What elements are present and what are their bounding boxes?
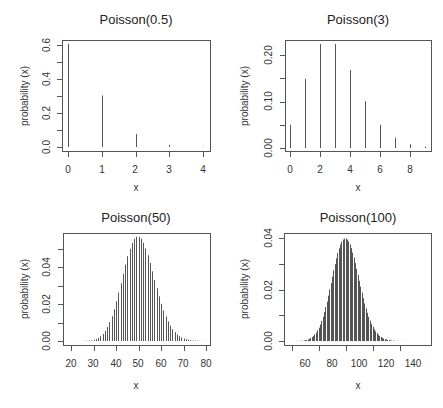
y-tick-label: 0.00 xyxy=(263,331,274,350)
y-axis-label: probability (x) xyxy=(19,66,30,126)
x-tick-label: 60 xyxy=(155,358,166,369)
y-tick-label: 0.02 xyxy=(41,294,52,313)
x-tick-label: 40 xyxy=(110,358,121,369)
x-tick-label: 100 xyxy=(351,358,368,369)
y-tick-label: 0.6 xyxy=(41,38,52,52)
x-tick-label: 6 xyxy=(377,164,383,175)
plot-poisson-0-5: Poisson(0.5) probability (x) x 0 1 2 3 4… xyxy=(0,0,222,204)
x-tick-label: 140 xyxy=(405,358,422,369)
x-axis-label: x xyxy=(356,182,361,193)
plot-area xyxy=(0,204,222,408)
y-tick-label: 0.20 xyxy=(263,45,274,64)
x-tick-label: 8 xyxy=(407,164,413,175)
x-axis-label: x xyxy=(134,380,139,391)
y-tick-label: 0.04 xyxy=(41,257,52,276)
x-tick-label: 70 xyxy=(177,358,188,369)
x-tick-label: 80 xyxy=(326,358,337,369)
x-tick-label: 4 xyxy=(200,164,206,175)
x-tick-label: 0 xyxy=(287,164,293,175)
x-tick-label: 30 xyxy=(87,358,98,369)
plot-poisson-50: Poisson(50) probability (x) x 20 30 40 5… xyxy=(0,204,222,408)
y-tick-label: 0.02 xyxy=(263,280,274,299)
y-axis-label: probability (x) xyxy=(19,259,30,319)
y-tick-label: 0.0 xyxy=(41,140,52,154)
y-axis-label: probability (x) xyxy=(239,259,250,319)
x-tick-label: 50 xyxy=(132,358,143,369)
x-tick-label: 120 xyxy=(378,358,395,369)
x-tick-label: 3 xyxy=(166,164,172,175)
y-tick-label: 0.2 xyxy=(41,106,52,120)
x-tick-label: 2 xyxy=(317,164,323,175)
plot-poisson-100: Poisson(100) probability (x) x 60 80 100… xyxy=(222,204,443,408)
plot-frame xyxy=(286,41,432,152)
plot-area xyxy=(0,0,222,204)
y-tick-label: 0.10 xyxy=(263,91,274,110)
x-axis-label: x xyxy=(356,380,361,391)
x-tick-label: 0 xyxy=(65,164,71,175)
y-tick-label: 0.04 xyxy=(263,228,274,247)
x-tick-label: 4 xyxy=(347,164,353,175)
y-tick-label: 0.4 xyxy=(41,72,52,86)
y-tick-label: 0.00 xyxy=(41,331,52,350)
x-tick-label: 1 xyxy=(99,164,105,175)
x-tick-label: 2 xyxy=(132,164,138,175)
x-axis-label: x xyxy=(134,182,139,193)
plot-area xyxy=(222,204,443,408)
x-tick-label: 60 xyxy=(299,358,310,369)
x-tick-label: 80 xyxy=(200,358,211,369)
plot-poisson-3: Poisson(3) probability (x) x 0 2 4 6 8 0… xyxy=(222,0,443,204)
y-axis-label: probability (x) xyxy=(239,66,250,126)
x-tick-label: 20 xyxy=(65,358,76,369)
y-tick-label: 0.00 xyxy=(263,138,274,157)
